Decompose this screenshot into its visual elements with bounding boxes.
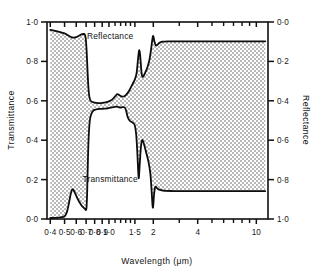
- chart-canvas: 0·40·50·60·70·80·91·01·52410 1·00·80·60·…: [0, 0, 316, 280]
- y-axis-left-title: Transmittance: [6, 90, 16, 149]
- reflectance-annotation: Reflectance: [87, 31, 134, 41]
- y-axis-ticks-right: [268, 22, 274, 219]
- y-axis-right-tick-labels: 0·00·20·40·60·81·0: [277, 18, 289, 224]
- y-left-tick-label: 0·8: [26, 57, 38, 66]
- y-left-tick-label: 1·0: [26, 18, 38, 27]
- y-left-tick-label: 0·6: [26, 97, 38, 106]
- x-tick-label: 0·5: [59, 228, 71, 237]
- y-axis-ticks-left: [41, 22, 47, 219]
- y-left-tick-label: 0·0: [26, 215, 38, 224]
- x-tick-label: 1·5: [129, 228, 141, 237]
- y-right-tick-label: 0·6: [277, 136, 289, 145]
- y-axis-right-title: Reflectance: [301, 95, 311, 145]
- spectral-transmittance-reflectance-figure: 0·40·50·60·70·80·91·01·52410 1·00·80·60·…: [0, 0, 316, 280]
- x-tick-label: 0·4: [44, 228, 56, 237]
- y-right-tick-label: 0·8: [277, 176, 289, 185]
- y-right-tick-label: 0·2: [277, 57, 289, 66]
- x-axis-title: Wavelength (μm): [121, 256, 192, 266]
- x-tick-label: 10: [252, 228, 262, 237]
- y-right-tick-label: 0·0: [277, 18, 289, 27]
- transmittance-annotation: Transmittance: [83, 174, 138, 184]
- x-tick-label: 4: [195, 228, 200, 237]
- y-left-tick-label: 0·2: [26, 176, 38, 185]
- y-right-tick-label: 0·4: [277, 97, 289, 106]
- x-tick-label: 2: [151, 228, 156, 237]
- x-axis-tick-labels: 0·40·50·60·70·80·91·01·52410: [44, 228, 261, 237]
- y-right-tick-label: 1·0: [277, 215, 289, 224]
- y-left-tick-label: 0·4: [26, 136, 38, 145]
- y-axis-left-tick-labels: 1·00·80·60·40·20·0: [26, 18, 38, 224]
- x-tick-label: 1·0: [103, 228, 115, 237]
